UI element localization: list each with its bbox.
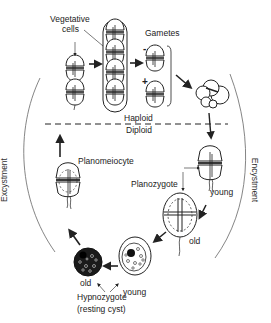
excystment-arc (24, 78, 55, 252)
gamete-minus (146, 45, 164, 71)
label-planomeiocyte: Planomeiocyte (78, 157, 134, 166)
gamete-fusion (196, 80, 229, 108)
young-hypnozygote (119, 237, 151, 275)
label-old-hypnozygote: old (80, 279, 91, 288)
label-resting-cyst: (resting cyst) (77, 305, 126, 314)
young-planozygote (198, 146, 222, 192)
label-vegetative: Vegetative (50, 15, 90, 24)
label-encystment: Encystment (250, 158, 260, 202)
label-diploid: Diploid (126, 126, 152, 135)
label-haploid: Haploid (124, 114, 153, 123)
gamete-plus (146, 81, 164, 107)
planomeiocyte (56, 163, 80, 209)
old-hypnozygote (74, 248, 102, 276)
label-hypnozygote: Hypnozygote (77, 293, 127, 302)
label-plus: + (142, 77, 148, 87)
label-minus: - (143, 44, 146, 54)
life-cycle-diagram (0, 0, 271, 323)
label-young-planozygote: young (210, 188, 233, 197)
label-planozygote: Planozygote (131, 180, 178, 189)
label-excystment: Excystment (0, 158, 9, 202)
old-planozygote (163, 193, 197, 256)
label-gametes: Gametes (145, 29, 180, 38)
vegetative-chain-short (66, 55, 84, 110)
label-cells: cells (62, 25, 79, 34)
gametes-brace (167, 46, 171, 106)
label-old-planozygote: old (189, 237, 200, 246)
vegetative-chain-long (103, 19, 127, 112)
